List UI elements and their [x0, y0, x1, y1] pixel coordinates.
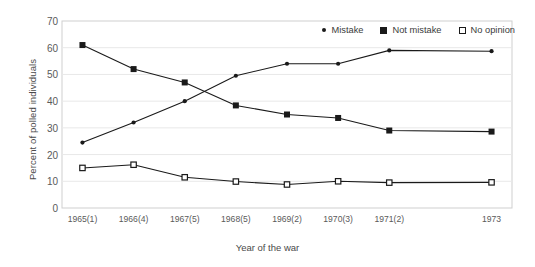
data-point-marker: [386, 128, 392, 134]
data-point-marker: [79, 42, 85, 48]
data-point-marker: [183, 99, 187, 103]
legend-item-no-opinion[interactable]: No opinion: [459, 25, 515, 35]
filled-square-marker-icon: [380, 27, 387, 34]
data-point-marker: [182, 175, 187, 180]
data-point-marker: [387, 180, 392, 185]
data-point-marker: [182, 79, 188, 85]
data-point-marker: [335, 179, 340, 184]
legend-label: Mistake: [331, 25, 363, 35]
data-point-marker: [80, 165, 85, 170]
legend-item-mistake[interactable]: Mistake: [322, 25, 363, 35]
legend-label: Not mistake: [392, 25, 441, 35]
data-point-marker: [233, 102, 239, 108]
data-point-marker: [234, 74, 238, 78]
data-point-marker: [335, 115, 341, 121]
plot-area: [0, 0, 535, 267]
filled-circle-marker-icon: [322, 28, 326, 32]
open-square-marker-icon: [459, 27, 466, 34]
data-point-marker: [80, 140, 84, 144]
data-point-marker: [489, 49, 493, 53]
data-point-marker: [489, 180, 494, 185]
chart-legend: Mistake Not mistake No opinion: [322, 25, 515, 35]
data-point-marker: [387, 48, 391, 52]
data-point-marker: [284, 182, 289, 187]
data-point-marker: [489, 129, 495, 135]
data-point-marker: [131, 66, 137, 72]
data-point-marker: [131, 162, 136, 167]
data-point-marker: [285, 62, 289, 66]
data-point-marker: [233, 179, 238, 184]
data-point-marker: [336, 62, 340, 66]
data-point-marker: [284, 112, 290, 118]
line-chart: Percent of polled individuals Year of th…: [0, 0, 535, 267]
legend-item-not-mistake[interactable]: Not mistake: [380, 25, 441, 35]
data-point-marker: [131, 120, 135, 124]
legend-label: No opinion: [471, 25, 515, 35]
